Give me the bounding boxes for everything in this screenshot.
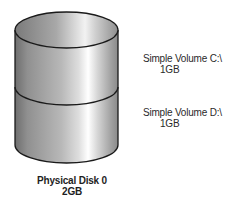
disk-name: Physical Disk 0	[30, 175, 114, 186]
volume-c-name: Simple Volume C:\	[143, 53, 222, 64]
disk-diagram: Simple Volume C:\ 1GB Simple Volume D:\ …	[0, 0, 230, 207]
volume-d-size: 1GB	[143, 118, 222, 129]
volume-c-label: Simple Volume C:\ 1GB	[143, 53, 222, 75]
cylinder-top-cap	[15, 12, 118, 48]
volume-d-name: Simple Volume D:\	[143, 107, 222, 118]
disk-caption: Physical Disk 0 2GB	[30, 175, 114, 197]
volume-c-size: 1GB	[143, 64, 222, 75]
volume-d-label: Simple Volume D:\ 1GB	[143, 107, 222, 129]
disk-size: 2GB	[30, 186, 114, 197]
